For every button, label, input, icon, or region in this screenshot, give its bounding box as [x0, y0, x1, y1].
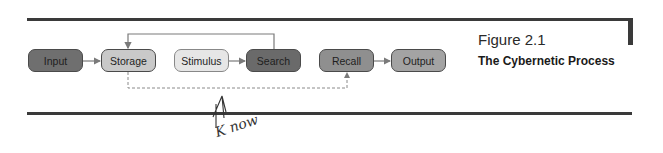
node-search: Search [246, 49, 301, 72]
node-label: Input [44, 55, 67, 67]
node-output: Output [391, 49, 446, 72]
figure-title: The Cybernetic Process [478, 54, 615, 68]
node-label: Stimulus [181, 55, 221, 67]
node-label: Output [403, 55, 435, 67]
node-storage: Storage [101, 49, 156, 72]
node-label: Search [257, 55, 290, 67]
node-label: Recall [332, 55, 361, 67]
node-input: Input [28, 49, 83, 72]
node-recall: Recall [319, 49, 374, 72]
node-stimulus: Stimulus [174, 49, 229, 72]
node-label: Storage [110, 55, 147, 67]
connector-lines [0, 0, 663, 153]
figure-number: Figure 2.1 [478, 31, 546, 48]
